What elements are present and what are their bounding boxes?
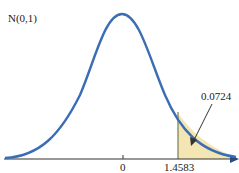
shaded-tail-area bbox=[178, 113, 235, 159]
distribution-title: N(0,1) bbox=[8, 12, 37, 24]
tick-label-z: 1.4583 bbox=[164, 161, 194, 173]
tick-label-zero: 0 bbox=[120, 161, 126, 173]
area-label: 0.0724 bbox=[201, 90, 231, 102]
annotation-arrow bbox=[193, 104, 212, 142]
bell-curve bbox=[5, 14, 236, 158]
normal-curve-diagram bbox=[0, 0, 239, 173]
